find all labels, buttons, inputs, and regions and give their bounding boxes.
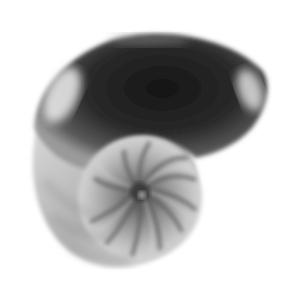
shell-highlight-top — [110, 34, 190, 46]
photo-canvas — [0, 0, 295, 292]
shell-spiral-core — [138, 191, 146, 199]
nautilus-shell-illustration — [0, 0, 295, 292]
